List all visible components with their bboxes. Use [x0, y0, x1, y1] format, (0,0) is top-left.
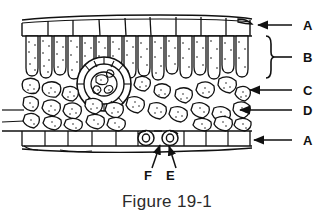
leader-f-guard	[152, 145, 160, 168]
stoma-guard-cells-left	[138, 131, 154, 146]
label-e-stoma: E	[166, 168, 175, 183]
label-c-mesophyll-cell: C	[303, 83, 313, 98]
leader-b-brace	[266, 36, 292, 78]
leader-e-stoma	[169, 146, 176, 168]
stoma-guard-cells-right	[162, 131, 178, 146]
label-d-spongy-layer: D	[303, 103, 312, 118]
leaf-cross-section-diagram: A B C D A F E Figure 19-1	[0, 0, 335, 218]
lower-epidermis-layer	[2, 131, 252, 153]
label-b-palisade-layer: B	[303, 50, 312, 65]
upper-cuticle	[22, 15, 252, 24]
label-f-guard-cell: F	[144, 168, 152, 183]
figure-caption: Figure 19-1	[122, 192, 212, 211]
figure-container: A B C D A F E Figure 19-1	[0, 0, 335, 218]
label-a-lower-epidermis: A	[303, 133, 313, 148]
palisade-mesophyll-layer	[26, 36, 248, 80]
label-a-upper-epidermis: A	[303, 18, 313, 33]
